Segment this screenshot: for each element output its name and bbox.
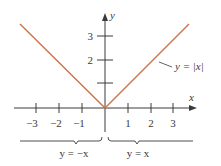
left-region-label: y = −x — [60, 147, 89, 159]
x-tick-label: 1 — [125, 117, 131, 129]
y-tick-label: 2 — [88, 54, 94, 66]
curve-label: y = |x| — [174, 60, 204, 72]
y-axis-arrow-icon — [102, 13, 108, 21]
x-tick-label: 2 — [148, 117, 154, 129]
x-tick-label: −2 — [50, 117, 62, 129]
y-tick-label: 3 — [88, 30, 94, 42]
x-axis-arrow-icon — [189, 105, 197, 111]
curve-leader-line — [159, 62, 172, 67]
right-region-label: y = x — [127, 147, 150, 159]
y-axis-label: y — [109, 9, 115, 21]
x-tick-label: −1 — [73, 117, 85, 129]
x-tick-label: 3 — [170, 117, 176, 129]
left-brace — [20, 137, 102, 144]
x-axis-label: x — [188, 91, 194, 103]
right-brace — [108, 137, 193, 144]
abs-value-graph: x y −3 −2 −1 1 2 3 2 3 y = |x| y = −x y … — [0, 0, 221, 166]
x-tick-label: −3 — [26, 117, 38, 129]
